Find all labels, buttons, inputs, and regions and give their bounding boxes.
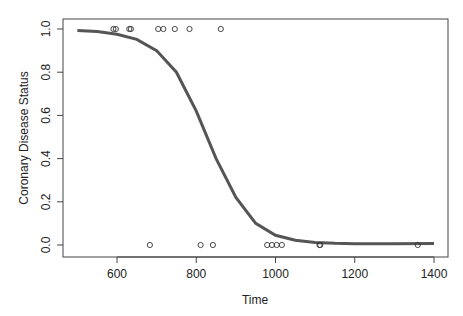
- x-tick-label: 800: [186, 267, 206, 281]
- data-point: [147, 242, 152, 247]
- data-point: [156, 26, 161, 31]
- y-axis: 0.00.20.40.60.81.0: [39, 20, 63, 253]
- y-tick-label: 0.0: [39, 236, 53, 253]
- y-tick-label: 1.0: [39, 20, 53, 37]
- y-tick-label: 0.4: [39, 150, 53, 167]
- x-tick-label: 1200: [341, 267, 368, 281]
- data-point: [218, 26, 223, 31]
- logistic-regression-plot: 600800100012001400 0.00.20.40.60.81.0 Ti…: [0, 0, 463, 316]
- data-point: [161, 26, 166, 31]
- y-tick-label: 0.8: [39, 64, 53, 81]
- data-point: [187, 26, 192, 31]
- y-axis-label: Coronary Disease Status: [17, 71, 31, 204]
- fitted-curve: [77, 31, 434, 244]
- data-point: [279, 242, 284, 247]
- data-point: [198, 242, 203, 247]
- x-tick-label: 1400: [421, 267, 448, 281]
- x-tick-label: 1000: [262, 267, 289, 281]
- x-axis: 600800100012001400: [107, 257, 448, 281]
- x-axis-label: Time: [242, 293, 269, 307]
- x-tick-label: 600: [107, 267, 127, 281]
- y-tick-label: 0.2: [39, 193, 53, 210]
- data-points: [111, 26, 421, 247]
- data-point: [172, 26, 177, 31]
- data-point: [210, 242, 215, 247]
- y-tick-label: 0.6: [39, 107, 53, 124]
